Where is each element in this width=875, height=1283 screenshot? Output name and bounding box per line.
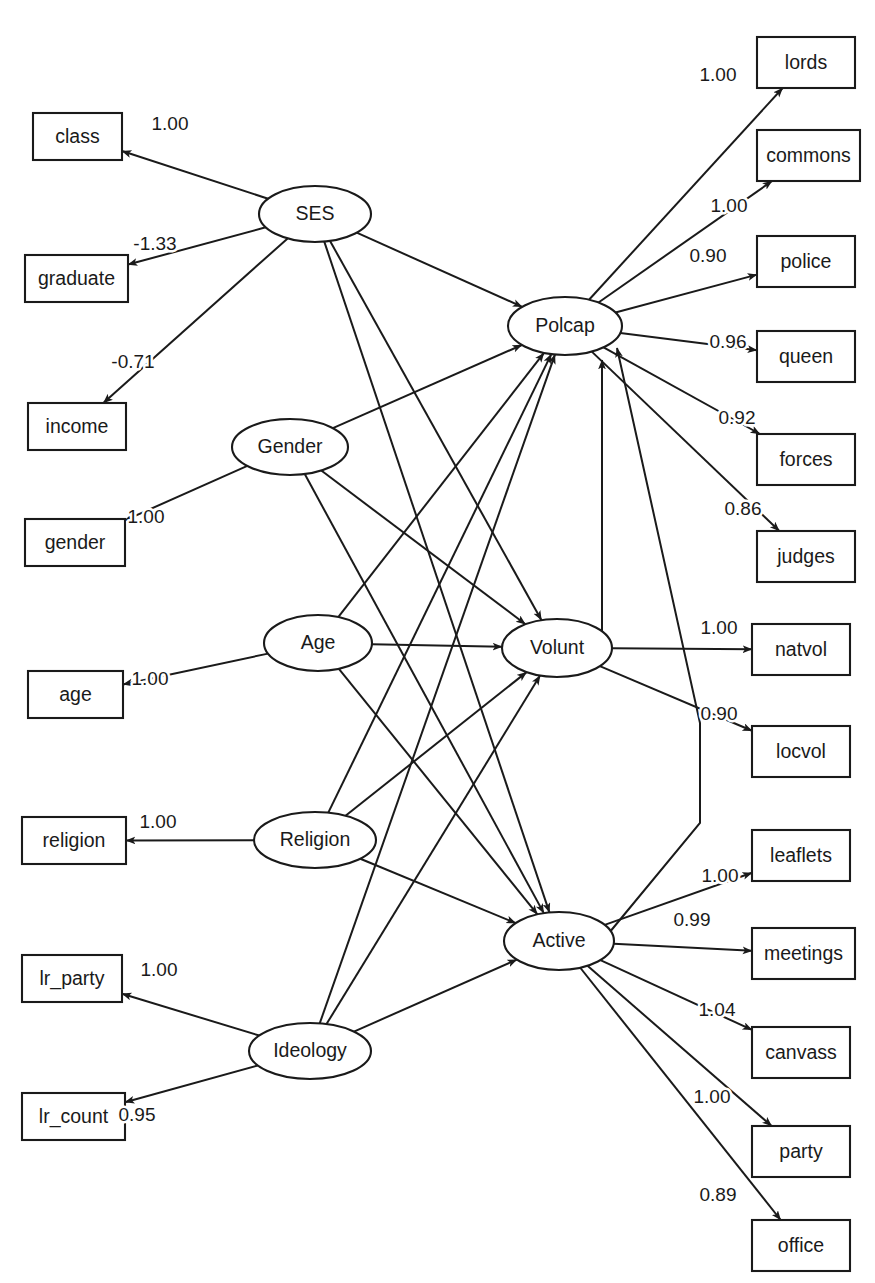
latent-label-religion: Religion — [280, 828, 350, 850]
coef-active-office: 0.89 — [700, 1184, 737, 1205]
coef-polcap-forces: 0.92 — [719, 407, 756, 428]
structural-path-ses-to-active — [324, 242, 549, 913]
structural-path-age-to-volunt — [372, 644, 502, 647]
latent-label-active: Active — [532, 929, 585, 951]
latent-node-ses: SES — [259, 186, 371, 242]
latent-node-age: Age — [264, 615, 372, 671]
structural-path-active-to-polcap — [609, 348, 700, 933]
coef-volunt-locvol: 0.90 — [701, 703, 738, 724]
latent-node-active: Active — [504, 912, 614, 970]
coef-age-age: 1.00 — [132, 668, 169, 689]
nodes-layer: classgraduateincomegenderagereligionlr_p… — [22, 37, 860, 1271]
coef-ses-income: -0.71 — [111, 351, 154, 372]
observed-label-lr_count: lr_count — [39, 1105, 109, 1128]
observed-label-commons: commons — [766, 144, 851, 166]
path-active-to-party — [588, 966, 772, 1126]
coef-polcap-police: 0.90 — [690, 245, 727, 266]
coef-polcap-commons: 1.00 — [711, 195, 748, 216]
observed-label-lr_party: lr_party — [39, 967, 104, 990]
latent-label-ses: SES — [295, 202, 334, 224]
observed-node-judges: judges — [757, 531, 855, 582]
observed-label-income: income — [46, 415, 109, 437]
latent-node-volunt: Volunt — [502, 619, 612, 677]
observed-node-canvass: canvass — [752, 1027, 850, 1078]
path-volunt-to-natvol — [612, 648, 752, 649]
observed-node-locvol: locvol — [752, 726, 850, 777]
coef-polcap-queen: 0.96 — [710, 331, 747, 352]
observed-node-commons: commons — [757, 130, 860, 181]
latent-label-volunt: Volunt — [530, 636, 585, 658]
coef-active-party: 1.00 — [694, 1086, 731, 1107]
observed-node-office: office — [752, 1220, 850, 1271]
structural-path-age-to-polcap — [338, 353, 544, 617]
observed-label-meetings: meetings — [764, 942, 843, 964]
structural-path-ses-to-polcap — [357, 233, 523, 307]
path-active-to-meetings — [614, 944, 752, 951]
observed-label-religion: religion — [43, 829, 106, 851]
observed-label-judges: judges — [776, 545, 835, 567]
path-polcap-to-police — [615, 275, 757, 313]
edges-layer — [103, 88, 782, 1220]
coef-gender-gender: 1.00 — [128, 506, 165, 527]
coef-volunt-natvol: 1.00 — [701, 617, 738, 638]
structural-path-ses-to-volunt — [330, 241, 541, 620]
observed-label-police: police — [781, 250, 832, 272]
observed-label-forces: forces — [779, 448, 832, 470]
edge-labels-layer: 1.001.00-1.33-1.33-0.71-0.711.001.001.00… — [111, 64, 761, 1205]
observed-node-graduate: graduate — [25, 255, 128, 302]
observed-label-canvass: canvass — [765, 1041, 837, 1063]
observed-node-natvol: natvol — [752, 624, 850, 675]
structural-path-religion-to-active — [360, 859, 515, 923]
coef-ideology-lr_party: 1.00 — [141, 959, 178, 980]
observed-label-locvol: locvol — [776, 740, 826, 762]
path-ideology-to-lr_party — [122, 994, 259, 1036]
observed-node-age: age — [28, 671, 123, 718]
latent-label-gender: Gender — [257, 435, 323, 457]
coef-ses-graduate: -1.33 — [133, 233, 176, 254]
observed-label-natvol: natvol — [775, 638, 827, 660]
latent-node-gender: Gender — [232, 419, 348, 475]
coef-religion-religion: 1.00 — [140, 811, 177, 832]
latent-label-age: Age — [301, 631, 336, 653]
coef-ideology-lr_count: 0.95 — [119, 1104, 156, 1125]
observed-label-office: office — [778, 1234, 824, 1256]
coef-ses-class: 1.00 — [152, 113, 189, 134]
observed-node-meetings: meetings — [752, 928, 855, 979]
latent-node-ideology: Ideology — [249, 1023, 371, 1079]
coef-active-canvass: 1.04 — [699, 999, 736, 1020]
structural-path-religion-to-polcap — [328, 354, 551, 813]
latent-label-ideology: Ideology — [273, 1039, 347, 1061]
observed-node-leaflets: leaflets — [752, 830, 850, 881]
coef-polcap-judges: 0.86 — [725, 498, 762, 519]
coef-active-leaflets: 1.00 — [702, 865, 739, 886]
observed-label-party: party — [779, 1140, 823, 1162]
observed-label-class: class — [55, 125, 100, 147]
structural-path-age-to-active — [339, 669, 538, 915]
latent-label-polcap: Polcap — [535, 314, 595, 336]
observed-node-lr_count: lr_count — [22, 1093, 125, 1140]
observed-node-gender: gender — [25, 519, 125, 566]
structural-path-ideology-to-active — [354, 960, 517, 1032]
observed-node-class: class — [33, 113, 122, 160]
observed-node-religion: religion — [22, 817, 126, 864]
observed-node-party: party — [752, 1126, 850, 1177]
observed-node-lords: lords — [757, 37, 855, 88]
observed-label-lords: lords — [785, 51, 828, 73]
observed-node-income: income — [28, 403, 126, 450]
structural-path-volunt-to-polcap — [593, 360, 602, 634]
observed-label-gender: gender — [45, 531, 106, 553]
coef-polcap-lords: 1.00 — [700, 64, 737, 85]
latent-node-religion: Religion — [254, 812, 376, 868]
sem-canvas: classgraduateincomegenderagereligionlr_p… — [0, 0, 875, 1283]
observed-node-queen: queen — [757, 331, 855, 382]
structural-path-gender-to-volunt — [321, 471, 525, 625]
latent-node-polcap: Polcap — [508, 297, 622, 355]
path-ses-to-class — [122, 151, 268, 199]
observed-label-queen: queen — [779, 345, 833, 367]
sem-path-diagram: classgraduateincomegenderagereligionlr_p… — [0, 0, 875, 1283]
observed-label-graduate: graduate — [38, 267, 115, 289]
observed-node-lr_party: lr_party — [22, 955, 122, 1002]
path-active-to-office — [580, 968, 780, 1220]
observed-label-age: age — [59, 683, 92, 705]
observed-label-leaflets: leaflets — [770, 844, 832, 866]
